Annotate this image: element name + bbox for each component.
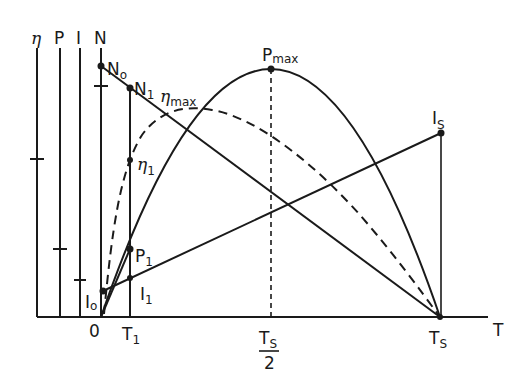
current-line bbox=[103, 133, 441, 291]
i-axis-label: I bbox=[76, 28, 81, 48]
i0-label: Io bbox=[85, 292, 97, 313]
p1-point bbox=[127, 246, 134, 253]
p-axis-label: P bbox=[54, 28, 64, 48]
pmax-label: Pmax bbox=[262, 45, 298, 66]
t1-tick-label: T1 bbox=[121, 324, 140, 347]
x-axis-label: T bbox=[492, 320, 504, 340]
power-initial-segment bbox=[101, 249, 130, 317]
n0-label: No bbox=[107, 59, 127, 82]
pmax-point bbox=[268, 66, 275, 73]
eta-axis-label: η bbox=[31, 28, 42, 48]
n1-label: N1 bbox=[134, 79, 154, 102]
eta1-point bbox=[127, 157, 133, 163]
n-axis-label: N bbox=[94, 28, 107, 48]
i0-point bbox=[100, 288, 107, 295]
ts-tick-label: TS bbox=[428, 328, 447, 351]
eta1-label: η1 bbox=[137, 154, 155, 178]
is-label: IS bbox=[432, 108, 445, 132]
i1-label: I1 bbox=[140, 284, 153, 307]
origin-label: 0 bbox=[89, 321, 100, 341]
n0-point bbox=[98, 63, 105, 70]
eta-max-label: ηmax bbox=[160, 86, 196, 109]
ts-point bbox=[437, 314, 443, 320]
ts-half-numerator: TS bbox=[258, 328, 277, 351]
n1-point bbox=[127, 85, 134, 92]
motor-characteristics-diagram: η P I N T No N1 ηmax η1 Pmax P1 I1 Io IS… bbox=[0, 0, 528, 388]
p1-label: P1 bbox=[135, 246, 153, 269]
i1-point bbox=[127, 275, 133, 281]
ts-half-denominator: 2 bbox=[264, 353, 275, 373]
